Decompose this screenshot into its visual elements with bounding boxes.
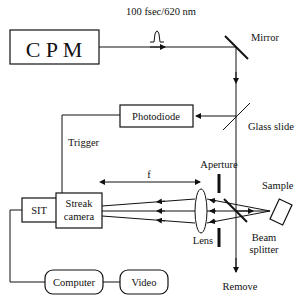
computer-label: Computer [53,277,95,288]
sample-icon [270,199,292,225]
remove-label: Remove [223,281,258,292]
optical-setup-diagram: C P M 100 fsec/620 nm Mirror Glass slide… [0,0,306,301]
pulse-label: 100 fsec/620 nm [126,6,196,17]
cpm-label: C P M [26,37,83,62]
video-box: Video [120,270,168,294]
trigger-line [62,115,120,193]
ray-top [102,199,195,206]
streak-camera-label-2: camera [64,211,95,222]
streak-camera-box: Streak camera [56,193,102,228]
streak-camera-label-1: Streak [66,198,94,209]
cpm-laser-box: C P M [10,30,99,64]
beam-splitter-label-2: splitter [249,244,279,255]
video-label: Video [131,277,156,288]
aperture-label: Aperture [200,159,238,170]
photodiode-box: Photodiode [120,105,193,127]
ray-bottom [102,216,195,223]
pulse-shape-icon [150,31,164,42]
photodiode-label: Photodiode [132,111,180,122]
trigger-label: Trigger [68,137,100,148]
lens-label: Lens [193,235,213,246]
focal-length-label: f [147,169,151,180]
computer-box: Computer [45,270,103,294]
mirror-label: Mirror [251,32,279,43]
lens-icon [195,189,207,233]
sit-box: SIT [22,198,57,222]
beam-splitter-label-1: Beam [252,232,277,243]
sit-label: SIT [31,205,47,216]
sample-label: Sample [262,180,294,191]
glass-slide-label: Glass slide [248,121,294,132]
